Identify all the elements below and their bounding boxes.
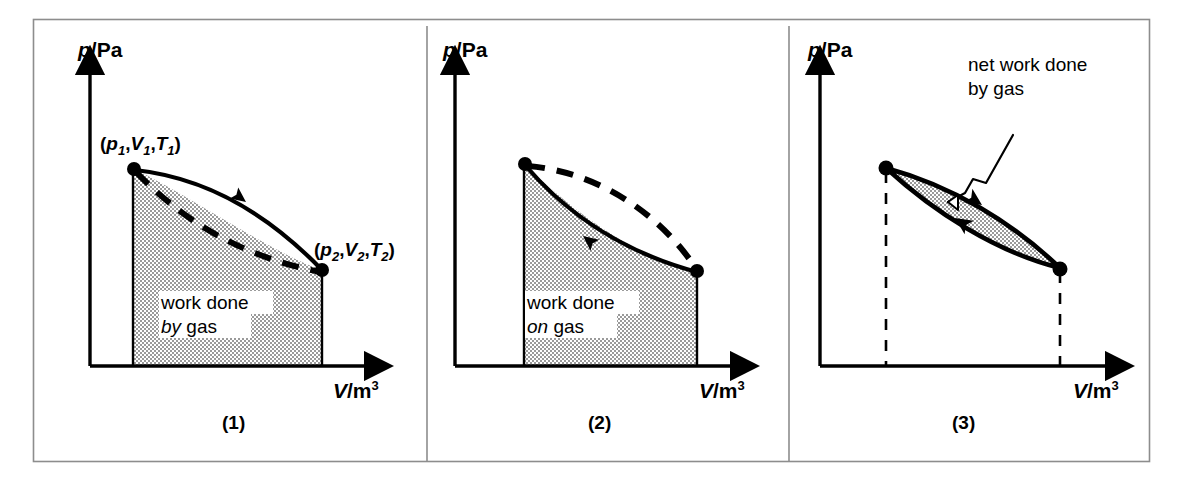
panel-3-annotation-leader	[948, 135, 1013, 202]
panel-1-state1-point	[127, 162, 141, 176]
panel-3-state1-point	[879, 161, 894, 176]
panel-2-work-note-line2: on gas	[527, 316, 584, 337]
panel-1-work-note-line1: work done	[160, 292, 249, 313]
panel-3-annotation-line1: net work done	[968, 54, 1087, 75]
panel-2-caption: (2)	[588, 412, 611, 433]
panel-1-state2-label: (p2,V2,T2)	[314, 239, 395, 264]
panel-3-cycle-loop	[886, 168, 1060, 268]
panel-1-y-axis-label: p/Pa	[77, 38, 123, 61]
panel-3: net work done by gas p/Pa V/m3 (3)	[807, 38, 1119, 433]
panel-3-state2-point	[1053, 262, 1068, 277]
panel-2-y-axis-label: p/Pa	[442, 38, 488, 61]
panel-1-caption: (1)	[222, 412, 245, 433]
panel-2: p/Pa V/m3 work done on gas (2)	[442, 38, 745, 433]
panel-1-work-note-line2: by gas	[161, 316, 217, 337]
panel-2-work-note-line1: work done	[526, 292, 615, 313]
panel-2-state2-point	[690, 264, 704, 278]
figure-canvas: p/Pa V/m3 (p1,V1,T1) (p2,V2,T2) work don…	[0, 0, 1182, 485]
panel-3-x-axis-label: V/m3	[1073, 378, 1119, 402]
pv-diagram-figure: p/Pa V/m3 (p1,V1,T1) (p2,V2,T2) work don…	[0, 0, 1182, 485]
panel-1-x-axis-label: V/m3	[333, 378, 379, 402]
panel-3-caption: (3)	[952, 412, 975, 433]
panel-2-x-axis-label: V/m3	[699, 378, 745, 402]
panel-2-state1-point	[518, 157, 532, 171]
panel-3-y-axis-label: p/Pa	[807, 38, 853, 61]
panel-1-state1-label: (p1,V1,T1)	[100, 133, 181, 158]
panel-1-state2-point	[315, 263, 329, 277]
panel-3-annotation-line2: by gas	[968, 78, 1024, 99]
panel-1: p/Pa V/m3 (p1,V1,T1) (p2,V2,T2) work don…	[77, 38, 395, 433]
